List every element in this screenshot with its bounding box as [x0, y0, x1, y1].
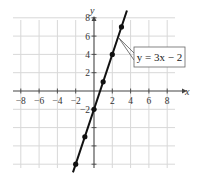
data-point — [73, 162, 78, 167]
y-tick-label: 2 — [85, 68, 90, 78]
x-tick-label: 6 — [147, 96, 152, 106]
x-tick-label: 2 — [110, 96, 115, 106]
callout-pointer — [119, 38, 134, 60]
equation-callout: y = 3x − 2 — [119, 38, 185, 67]
y-axis-label: y — [89, 5, 95, 16]
x-tick-label: −8 — [16, 96, 26, 106]
data-point — [101, 79, 106, 84]
y-tick-label: −2 — [80, 105, 90, 115]
y-axis-arrow-icon — [92, 16, 97, 21]
line-chart: −8−6−4−224688642−2 y = 3x − 2 x y — [0, 0, 203, 175]
callout-pointer — [119, 38, 134, 53]
x-tick-label: −6 — [34, 96, 44, 106]
x-axis-label: x — [184, 86, 190, 97]
data-point — [110, 52, 115, 57]
y-tick-label: 4 — [85, 50, 90, 60]
x-tick-label: 8 — [165, 96, 170, 106]
x-tick-label: 4 — [128, 96, 133, 106]
data-point — [119, 24, 124, 29]
y-tick-label: 6 — [85, 32, 90, 42]
equation-label: y = 3x − 2 — [137, 51, 182, 63]
data-point — [91, 107, 96, 112]
x-tick-label: −4 — [52, 96, 62, 106]
data-point — [82, 134, 87, 139]
